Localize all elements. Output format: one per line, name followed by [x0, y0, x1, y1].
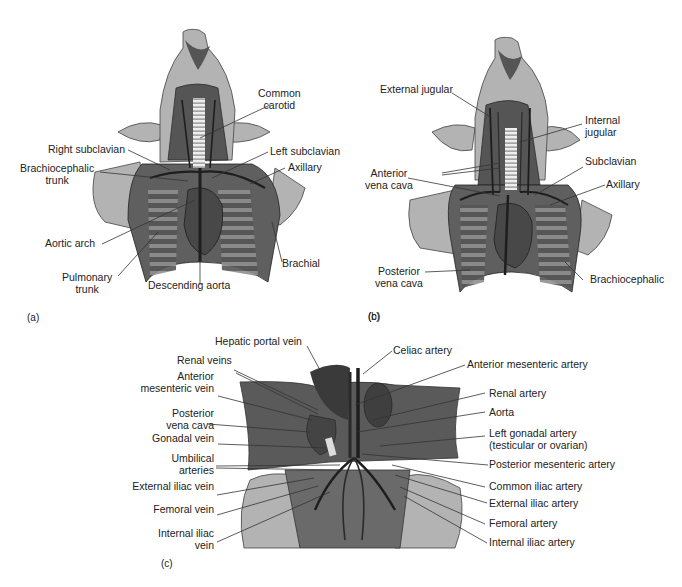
label-anterior-vena-cava: Anterior vena cava	[365, 168, 413, 191]
label-external-iliac-vein: External iliac vein	[110, 481, 214, 493]
label-anterior-mesenteric-artery: Anterior mesenteric artery	[467, 359, 588, 371]
label-subclavian: Subclavian	[585, 156, 636, 168]
panel-c-illustration	[240, 365, 462, 548]
label-posterior-vena-cava-b: Posterior vena cava	[375, 266, 423, 289]
label-internal-iliac-vein: Internal iliac vein	[140, 528, 214, 551]
label-internal-iliac-artery: Internal iliac artery	[489, 537, 575, 549]
label-axillary-a: Axillary	[288, 162, 322, 174]
label-aortic-arch: Aortic arch	[45, 238, 95, 250]
label-descending-aorta: Descending aorta	[148, 280, 230, 292]
label-anterior-mesenteric-vein: Anterior mesenteric vein	[140, 371, 214, 394]
label-axillary-b: Axillary	[606, 179, 640, 191]
panel-b-illustration	[409, 37, 612, 292]
label-femoral-vein: Femoral vein	[140, 504, 214, 516]
label-posterior-mesenteric-artery: Posterior mesenteric artery	[489, 459, 615, 471]
panel-letter-b: (b)	[368, 311, 380, 322]
label-umbilical-arteries: Umbilical arteries	[140, 453, 214, 476]
label-left-gonadal-artery: Left gonadal artery (testicular or ovari…	[489, 428, 588, 451]
label-left-subclavian: Left subclavian	[270, 146, 340, 158]
label-renal-veins: Renal veins	[177, 355, 232, 367]
label-internal-jugular: Internal jugular	[585, 115, 620, 138]
label-brachiocephalic-trunk: Brachiocephalic trunk	[20, 163, 94, 186]
label-brachiocephalic: Brachiocephalic	[590, 274, 664, 286]
label-femoral-artery: Femoral artery	[489, 518, 557, 530]
label-gonadal-vein: Gonadal vein	[140, 433, 214, 445]
label-posterior-vena-cava-c: Posterior vena cava	[140, 408, 214, 431]
panel-letter-c: (c)	[161, 558, 173, 569]
figure: Common carotid Right subclavian Left sub…	[0, 0, 682, 587]
label-external-iliac-artery: External iliac artery	[489, 498, 578, 510]
label-brachial: Brachial	[282, 258, 320, 270]
label-hepatic-portal-vein: Hepatic portal vein	[215, 336, 302, 348]
panel-letter-a: (a)	[27, 312, 39, 323]
label-common-carotid: Common carotid	[258, 88, 301, 111]
label-right-subclavian: Right subclavian	[48, 144, 125, 156]
label-aorta: Aorta	[489, 407, 514, 419]
label-renal-artery: Renal artery	[489, 388, 546, 400]
label-celiac-artery: Celiac artery	[393, 345, 452, 357]
label-pulmonary-trunk: Pulmonary trunk	[62, 272, 112, 295]
label-common-iliac-artery: Common iliac artery	[489, 481, 582, 493]
label-external-jugular: External jugular	[380, 84, 453, 96]
